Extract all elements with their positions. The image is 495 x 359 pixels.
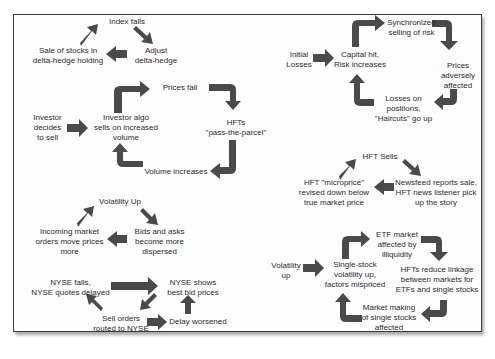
node-adjust-delta-hedge: Adjust delta-hedge xyxy=(126,46,186,66)
node-newsfeed: Newsfeed reports sale, HFT news listener… xyxy=(391,178,481,208)
node-hfts-reduce-linkage: HFTs reduce linkage between markets for … xyxy=(391,265,483,295)
node-hft-sells: HFT Sells xyxy=(355,152,405,162)
node-capital-hit: Capital hit, Risk increases xyxy=(330,50,390,70)
node-investor-algo: Investor algo sells on increased volume xyxy=(86,113,166,143)
node-volatility-up: Volatility Up xyxy=(90,197,150,207)
node-investor-decides: Investor decides to sell xyxy=(25,113,70,143)
node-incoming-orders: Incoming market orders move prices more xyxy=(32,227,107,257)
node-bids-and-asks: Bids and asks become more dispersed xyxy=(127,227,192,257)
node-etf-market: ETF market affected by illiquidity xyxy=(369,230,425,260)
node-prices-fall: Prices fall xyxy=(155,83,205,93)
node-nyse-falls: NYSE falls, NYSE quotes delayed xyxy=(28,278,113,298)
node-hfts-pass-the-parcel: HFTs "pass-the-parcel" xyxy=(200,118,272,138)
node-sale-of-stocks: Sale of stocks in delta-hedge holding xyxy=(28,46,108,66)
node-delay-worsened: Delay worsened xyxy=(167,317,229,327)
node-single-stock-volatility: Single-stock volatility up, factors misp… xyxy=(321,260,389,290)
node-nyse-shows: NYSE shows best bid prices xyxy=(158,278,228,298)
node-losses-on-positions: Losses on positions, "Haircuts" go up xyxy=(371,94,436,124)
node-volume-increases: Volume increases xyxy=(141,167,211,177)
node-prices-adversely: Prices adversely affected xyxy=(436,61,480,91)
node-volatility-up-2: Volatility up xyxy=(267,261,305,281)
node-microprice: HFT "microprice" revised down below true… xyxy=(294,178,374,208)
node-market-making: Market making of single stocks affected xyxy=(355,303,423,333)
node-initial-losses: Initial Losses xyxy=(283,50,315,70)
node-index-falls: Index falls xyxy=(97,17,157,27)
node-synchronized-selling: Synchronized selling of risk xyxy=(384,18,439,38)
node-sell-orders: Sell orders routed to NYSE xyxy=(90,314,152,334)
